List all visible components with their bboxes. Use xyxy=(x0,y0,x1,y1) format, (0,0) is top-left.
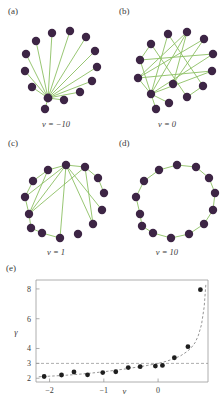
graph-node xyxy=(89,220,97,228)
y-tick-label: 4 xyxy=(27,344,31,353)
data-point xyxy=(126,365,131,370)
graph-node xyxy=(21,193,29,201)
graph-node xyxy=(140,177,148,185)
graph-node xyxy=(199,82,207,90)
panel-d: (d) ν = 10 xyxy=(111,134,223,262)
panel-c: (c) ν = 1 xyxy=(0,134,112,262)
fit-curve xyxy=(39,284,206,376)
graph-node xyxy=(136,210,144,218)
data-point xyxy=(138,364,143,369)
graph-node xyxy=(25,210,33,218)
data-point xyxy=(72,370,77,375)
graph-node xyxy=(56,234,64,242)
graph-node xyxy=(167,234,175,242)
data-point xyxy=(186,344,191,349)
graph-edge xyxy=(66,165,102,210)
graph-node xyxy=(134,74,142,82)
graph-edge xyxy=(173,39,204,84)
network-graph-c xyxy=(0,140,112,250)
graph-node xyxy=(185,230,193,238)
graph-node xyxy=(211,189,219,197)
graph-edge xyxy=(48,51,95,98)
graph-node xyxy=(100,189,108,197)
graph-node xyxy=(192,163,200,171)
panel-a-caption: ν = −10 xyxy=(0,119,112,129)
y-tick-label: 8 xyxy=(27,285,31,294)
data-point xyxy=(113,369,118,374)
data-point xyxy=(198,287,203,292)
graph-node xyxy=(152,105,160,113)
data-point xyxy=(42,374,47,379)
graph-node xyxy=(164,30,172,38)
data-point xyxy=(160,363,165,368)
graph-node xyxy=(82,33,90,41)
graph-edge xyxy=(168,34,203,86)
graph-node xyxy=(27,224,35,232)
graph-node xyxy=(91,47,99,55)
graph-node xyxy=(138,222,146,230)
x-tick-label: 0 xyxy=(156,386,160,395)
graph-node xyxy=(60,96,68,104)
graph-node xyxy=(155,166,163,174)
network-graph-d xyxy=(111,140,223,250)
graph-node xyxy=(76,88,84,96)
graph-node xyxy=(183,28,191,36)
y-tick-label: 2 xyxy=(27,374,31,383)
panel-c-caption: ν = 1 xyxy=(0,247,112,257)
y-axis-label: γ xyxy=(14,327,18,337)
x-tick-label: −1 xyxy=(100,386,109,395)
graph-node xyxy=(132,193,140,201)
graph-node xyxy=(48,29,56,37)
graph-edge xyxy=(60,165,66,238)
y-tick-label: 3 xyxy=(27,359,31,368)
graph-node xyxy=(98,206,106,214)
graph-node xyxy=(200,220,208,228)
plot-frame xyxy=(36,280,208,382)
graph-node xyxy=(149,229,157,237)
panel-e-label: (e) xyxy=(6,263,16,273)
panel-e: (e) 23468−2−10νγ xyxy=(0,262,223,407)
x-axis-label: ν xyxy=(123,386,127,396)
graph-node xyxy=(183,93,191,101)
y-tick-label: 6 xyxy=(27,315,31,324)
graph-node xyxy=(205,174,213,182)
graph-edge xyxy=(138,32,187,78)
graph-node xyxy=(147,90,155,98)
graph-node xyxy=(209,50,217,58)
graph-node xyxy=(93,63,101,71)
x-tick-label: −2 xyxy=(45,386,54,395)
data-point xyxy=(59,373,64,378)
graph-node xyxy=(29,177,37,185)
graph-node xyxy=(22,50,30,58)
graph-node xyxy=(44,166,52,174)
panel-b: (b) ν = 0 xyxy=(111,0,223,135)
graph-node xyxy=(38,229,46,237)
data-point xyxy=(172,355,177,360)
graph-node xyxy=(32,37,40,45)
graph-node xyxy=(66,27,74,35)
graph-node xyxy=(88,77,96,85)
graph-node xyxy=(136,56,144,64)
graph-node xyxy=(74,230,82,238)
graph-node xyxy=(208,67,216,75)
graph-node xyxy=(62,161,70,169)
panel-d-caption: ν = 10 xyxy=(111,247,223,257)
network-graph-a xyxy=(0,8,112,120)
graph-node xyxy=(28,83,36,91)
graph-node xyxy=(81,163,89,171)
data-point xyxy=(85,372,90,377)
graph-node xyxy=(41,105,49,113)
graph-node xyxy=(147,40,155,48)
graph-node xyxy=(200,35,208,43)
panel-a: (a) ν = −10 xyxy=(0,0,112,135)
graph-node xyxy=(169,80,177,88)
panel-b-caption: ν = 0 xyxy=(111,119,223,129)
graph-node xyxy=(209,206,217,214)
graph-node xyxy=(21,67,29,75)
gamma-vs-nu-chart: 23468−2−10νγ xyxy=(0,274,223,407)
graph-edge xyxy=(29,167,85,214)
graph-node xyxy=(94,174,102,182)
graph-edge xyxy=(36,41,48,98)
data-point xyxy=(100,370,105,375)
graph-node xyxy=(165,99,173,107)
